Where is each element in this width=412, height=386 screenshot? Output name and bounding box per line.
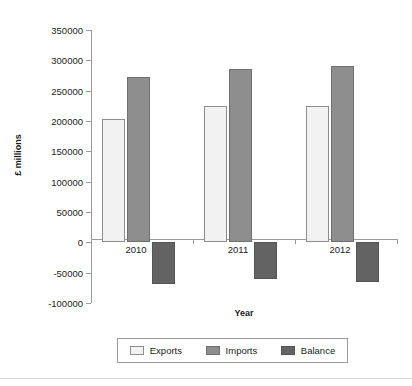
y-tick-label: 250000 [51, 85, 83, 96]
y-tick [86, 242, 91, 243]
y-axis-line [91, 30, 92, 303]
y-tick-label: -50000 [53, 267, 83, 278]
y-tick-label: 150000 [51, 146, 83, 157]
bar-exports-2011 [204, 106, 227, 242]
legend-item-imports[interactable]: Imports [206, 345, 258, 356]
legend-item-exports[interactable]: Exports [130, 345, 182, 356]
legend-label: Exports [150, 345, 182, 356]
x-tick [295, 239, 296, 244]
y-tick-label: 300000 [51, 55, 83, 66]
x-tick [397, 239, 398, 244]
bar-balance-2012 [356, 242, 379, 282]
bar-balance-2010 [152, 242, 175, 284]
y-axis-title: £ millions [13, 115, 23, 195]
y-tick [86, 60, 91, 61]
y-tick [86, 30, 91, 31]
y-tick-label: 350000 [51, 25, 83, 36]
chart-legend: ExportsImportsBalance [117, 338, 348, 363]
y-tick [86, 151, 91, 152]
x-category-label-2010: 2010 [125, 244, 146, 255]
bar-imports-2012 [331, 66, 354, 243]
bottom-divider [0, 378, 412, 379]
legend-swatch-imports-icon [206, 346, 220, 355]
legend-label: Balance [301, 345, 335, 356]
y-tick-label: 100000 [51, 176, 83, 187]
x-axis-title: Year [91, 308, 397, 318]
x-category-label-2011: 2011 [228, 244, 248, 255]
legend-item-balance[interactable]: Balance [281, 345, 335, 356]
y-tick-label: 50000 [57, 207, 83, 218]
y-tick [86, 91, 91, 92]
x-category-label-2012: 2012 [329, 244, 350, 255]
legend-swatch-balance-icon [281, 346, 295, 355]
y-tick [86, 212, 91, 213]
legend-swatch-exports-icon [130, 346, 144, 355]
y-tick-label: 0 [78, 237, 83, 248]
y-tick [86, 182, 91, 183]
bar-chart: £ millions 35000030000025000020000015000… [0, 0, 412, 386]
bar-exports-2010 [102, 119, 125, 242]
bar-balance-2011 [254, 242, 277, 278]
y-tick [86, 121, 91, 122]
y-tick [86, 273, 91, 274]
x-tick [193, 239, 194, 244]
bar-imports-2011 [229, 69, 252, 242]
plot-area: 3500003000002500002000001500001000005000… [91, 30, 397, 303]
bar-imports-2010 [127, 77, 150, 242]
y-tick-label: -100000 [48, 298, 83, 309]
y-tick-label: 200000 [51, 116, 83, 127]
bar-exports-2012 [306, 106, 329, 243]
y-tick [86, 303, 91, 304]
legend-label: Imports [226, 345, 258, 356]
